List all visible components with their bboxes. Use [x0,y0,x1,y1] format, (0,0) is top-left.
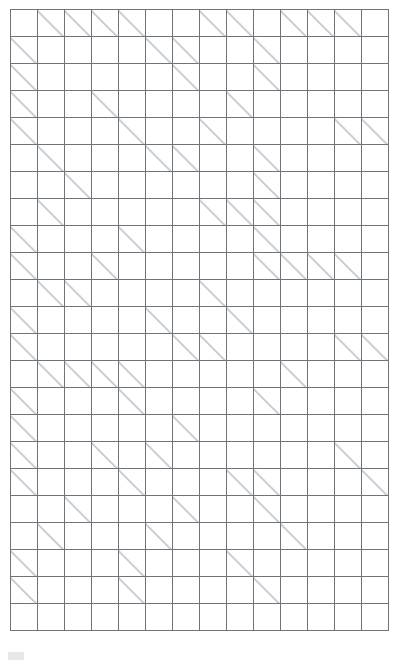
entry-cell-r17c2[interactable] [65,469,92,496]
kakuro-grid[interactable]: 1133315203342272291114164172344211812611… [10,9,389,631]
entry-cell-r12c9[interactable] [254,334,281,361]
entry-cell-r22c2[interactable] [65,604,92,631]
entry-cell-r19c11[interactable] [308,523,335,550]
entry-cell-r22c12[interactable] [335,604,362,631]
entry-cell-r2c3[interactable] [92,64,119,91]
entry-cell-r3c9[interactable] [254,91,281,118]
entry-cell-r21c6[interactable] [173,577,200,604]
entry-cell-r16c8[interactable] [227,442,254,469]
entry-cell-r15c1[interactable] [38,415,65,442]
entry-cell-r14c3[interactable] [92,388,119,415]
entry-cell-r5c13[interactable] [362,145,389,172]
entry-cell-r21c7[interactable] [200,577,227,604]
entry-cell-r1c2[interactable] [65,37,92,64]
entry-cell-r4c6[interactable] [173,118,200,145]
entry-cell-r6c3[interactable] [92,172,119,199]
entry-cell-r3c1[interactable] [38,91,65,118]
entry-cell-r9c6[interactable] [173,253,200,280]
entry-cell-r10c4[interactable] [119,280,146,307]
entry-cell-r21c5[interactable] [146,577,173,604]
entry-cell-r11c12[interactable] [335,307,362,334]
entry-cell-r15c9[interactable] [254,415,281,442]
entry-cell-r22c6[interactable] [173,604,200,631]
entry-cell-r2c4[interactable] [119,64,146,91]
entry-cell-r17c11[interactable] [308,469,335,496]
entry-cell-r21c13[interactable] [362,577,389,604]
entry-cell-r15c7[interactable] [200,415,227,442]
entry-cell-r9c1[interactable] [38,253,65,280]
entry-cell-r4c2[interactable] [65,118,92,145]
entry-cell-r10c12[interactable] [335,280,362,307]
entry-cell-r13c5[interactable] [146,361,173,388]
entry-cell-r16c9[interactable] [254,442,281,469]
entry-cell-r22c13[interactable] [362,604,389,631]
entry-cell-r12c2[interactable] [65,334,92,361]
entry-cell-r4c1[interactable] [38,118,65,145]
entry-cell-r22c7[interactable] [200,604,227,631]
entry-cell-r14c2[interactable] [65,388,92,415]
entry-cell-r18c11[interactable] [308,496,335,523]
entry-cell-r12c10[interactable] [281,334,308,361]
entry-cell-r20c13[interactable] [362,550,389,577]
entry-cell-r5c7[interactable] [200,145,227,172]
entry-cell-r4c10[interactable] [281,118,308,145]
entry-cell-r7c10[interactable] [281,199,308,226]
entry-cell-r6c4[interactable] [119,172,146,199]
entry-cell-r14c1[interactable] [38,388,65,415]
entry-cell-r22c11[interactable] [308,604,335,631]
entry-cell-r5c12[interactable] [335,145,362,172]
entry-cell-r6c5[interactable] [146,172,173,199]
entry-cell-r7c5[interactable] [146,199,173,226]
entry-cell-r10c3[interactable] [92,280,119,307]
entry-cell-r7c13[interactable] [362,199,389,226]
entry-cell-r2c13[interactable] [362,64,389,91]
entry-cell-r2c8[interactable] [227,64,254,91]
entry-cell-r14c11[interactable] [308,388,335,415]
entry-cell-r18c3[interactable] [92,496,119,523]
entry-cell-r19c4[interactable] [119,523,146,550]
entry-cell-r10c13[interactable] [362,280,389,307]
entry-cell-r16c1[interactable] [38,442,65,469]
entry-cell-r21c11[interactable] [308,577,335,604]
entry-cell-r19c12[interactable] [335,523,362,550]
entry-cell-r1c12[interactable] [335,37,362,64]
entry-cell-r8c3[interactable] [92,226,119,253]
entry-cell-r22c3[interactable] [92,604,119,631]
entry-cell-r10c11[interactable] [308,280,335,307]
entry-cell-r8c8[interactable] [227,226,254,253]
entry-cell-r5c10[interactable] [281,145,308,172]
entry-cell-r8c6[interactable] [173,226,200,253]
entry-cell-r11c11[interactable] [308,307,335,334]
entry-cell-r18c13[interactable] [362,496,389,523]
entry-cell-r11c9[interactable] [254,307,281,334]
entry-cell-r19c8[interactable] [227,523,254,550]
entry-cell-r20c10[interactable] [281,550,308,577]
entry-cell-r1c11[interactable] [308,37,335,64]
entry-cell-r6c13[interactable] [362,172,389,199]
entry-cell-r4c5[interactable] [146,118,173,145]
entry-cell-r15c10[interactable] [281,415,308,442]
entry-cell-r20c1[interactable] [38,550,65,577]
entry-cell-r18c10[interactable] [281,496,308,523]
entry-cell-r17c3[interactable] [92,469,119,496]
entry-cell-r2c5[interactable] [146,64,173,91]
entry-cell-r16c7[interactable] [200,442,227,469]
entry-cell-r17c10[interactable] [281,469,308,496]
entry-cell-r11c13[interactable] [362,307,389,334]
entry-cell-r11c3[interactable] [92,307,119,334]
entry-cell-r6c6[interactable] [173,172,200,199]
entry-cell-r9c8[interactable] [227,253,254,280]
entry-cell-r7c3[interactable] [92,199,119,226]
entry-cell-r1c4[interactable] [119,37,146,64]
entry-cell-r3c2[interactable] [65,91,92,118]
entry-cell-r6c11[interactable] [308,172,335,199]
entry-cell-r19c9[interactable] [254,523,281,550]
entry-cell-r2c2[interactable] [65,64,92,91]
entry-cell-r12c1[interactable] [38,334,65,361]
entry-cell-r18c12[interactable] [335,496,362,523]
entry-cell-r5c8[interactable] [227,145,254,172]
entry-cell-r16c6[interactable] [173,442,200,469]
entry-cell-r18c4[interactable] [119,496,146,523]
entry-cell-r22c0[interactable] [11,604,38,631]
entry-cell-r18c5[interactable] [146,496,173,523]
